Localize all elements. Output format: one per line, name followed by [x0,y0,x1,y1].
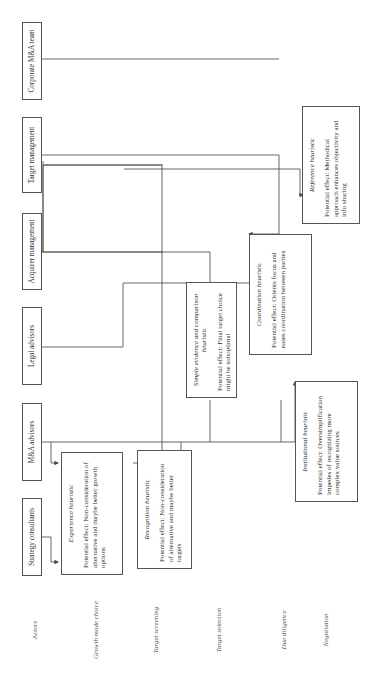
reference-heuristic-box: Reference heuristic Potential effect: Me… [302,106,360,224]
phase-target-screening: Target screening [152,607,160,653]
heuristic-title: Experience heuristic [67,459,75,568]
phase-actors: Actors [31,621,39,639]
heuristic-title: Simple evidence and comparison heuristic [192,289,209,391]
heuristic-effect: Potential effect: Oversimplification imp… [316,388,341,495]
phase-due-diligence: Due diligence [280,610,288,649]
simple-evidence-heuristic-box: Simple evidence and comparison heuristic… [186,282,237,398]
actor-ma-advisors: M&A advisors [22,403,42,481]
actor-corporate-ma-team: Corporate M&A team [22,22,42,100]
heuristic-title: Institutional heuristic [301,388,309,495]
actor-label: M&A advisors [28,421,36,464]
heuristic-effect: Potential effect: Non-consideration of a… [82,459,107,568]
actor-label: Corporate M&A team [28,29,36,92]
actor-legal-advisors: Legal advisors [22,307,42,385]
actor-label: Strategy consultants [28,508,36,566]
heuristic-effect: Potential effect: Final target choice mi… [216,289,233,391]
experience-heuristic-box: Experience heuristic Potential effect: N… [61,452,123,575]
heuristic-effect: Potential effect: Non-consideration of a… [158,457,183,562]
heuristic-title: Recognition heuristic [143,457,151,562]
heuristic-effect: Potential effect: Orients focus and ease… [270,241,287,348]
phase-growth-mode-choice: Growth mode choice [92,601,100,659]
institutional-heuristic-box: Institutional heuristic Potential effect… [295,381,358,502]
recognition-heuristic-box: Recognition heuristic Potential effect: … [137,450,192,569]
phase-target-selection: Target selection [215,608,223,652]
process-diagram: Strategy consultants M&A advisors Legal … [0,0,373,693]
actor-acquirer-management: Acquirer management [22,213,42,290]
heuristic-title: Reference heuristic [308,113,316,217]
actor-label: Legal advisors [28,325,36,367]
phase-negotiation: Negotiation [322,613,330,646]
coordination-heuristic-box: Coordination heuristic Potential effect:… [249,234,312,355]
actor-label: Target management [28,127,36,184]
heuristic-title: Coordination heuristic [255,241,263,348]
actor-target-management: Target management [22,117,42,193]
actor-label: Acquirer management [28,219,36,283]
actor-strategy-consultants: Strategy consultants [22,498,42,576]
heuristic-effect: Potential effect: Methodical approach en… [323,113,348,217]
